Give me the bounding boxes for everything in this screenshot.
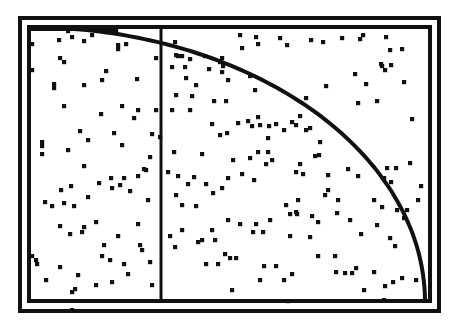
data-point (82, 225, 86, 229)
data-point (62, 60, 66, 64)
data-point (384, 35, 388, 39)
data-point (94, 283, 98, 287)
data-point (57, 38, 61, 42)
data-point (97, 181, 101, 185)
data-point (34, 258, 38, 262)
data-point (254, 222, 258, 226)
data-point (44, 278, 48, 282)
data-point (69, 184, 73, 188)
data-point (372, 198, 376, 202)
data-point (194, 204, 198, 208)
data-point (210, 228, 214, 232)
data-point (388, 48, 392, 52)
data-point (253, 88, 257, 92)
data-point (414, 278, 418, 282)
data-point (173, 245, 177, 249)
data-point (389, 63, 393, 67)
data-point (30, 68, 34, 72)
data-point (168, 234, 172, 238)
data-point (86, 138, 90, 142)
data-point (348, 218, 352, 222)
data-point (346, 167, 350, 171)
data-point (30, 254, 34, 258)
data-point (261, 230, 265, 234)
data-point (174, 93, 178, 97)
data-point (66, 29, 70, 33)
data-point (68, 232, 72, 236)
data-point (326, 173, 330, 177)
data-point (43, 200, 47, 204)
data-point (295, 212, 299, 216)
data-point (180, 203, 184, 207)
data-point (380, 205, 384, 209)
data-point (148, 260, 152, 264)
data-point (317, 153, 321, 157)
data-point (336, 198, 340, 202)
data-point (72, 204, 76, 208)
data-point (372, 270, 376, 274)
data-point (218, 133, 222, 137)
data-point (110, 28, 114, 32)
data-point (126, 272, 130, 276)
data-point (94, 27, 98, 31)
data-point (231, 158, 235, 162)
data-point (226, 176, 230, 180)
random-points (30, 27, 423, 312)
data-point (286, 299, 290, 303)
data-point (318, 140, 322, 144)
data-point (166, 170, 170, 174)
data-point (278, 36, 282, 40)
data-point (248, 74, 252, 78)
data-point (282, 278, 286, 282)
data-point (248, 156, 252, 160)
data-point (200, 152, 204, 156)
data-point (184, 76, 188, 80)
data-point (154, 56, 158, 60)
data-point (188, 57, 192, 61)
data-point (194, 83, 198, 87)
data-point (102, 27, 106, 31)
data-point (62, 104, 66, 108)
data-point (172, 150, 176, 154)
data-point (58, 224, 62, 228)
data-point (73, 287, 77, 291)
data-point (324, 84, 328, 88)
data-point (400, 276, 404, 280)
data-point (180, 54, 184, 58)
data-point (410, 117, 414, 121)
data-point (142, 167, 146, 171)
data-point (285, 43, 289, 47)
data-point (362, 288, 366, 292)
data-point (274, 264, 278, 268)
data-point (90, 27, 94, 31)
data-point (238, 33, 242, 37)
data-point (258, 123, 262, 127)
data-point (66, 148, 70, 152)
data-point (356, 174, 360, 178)
data-point (211, 191, 215, 195)
data-point (220, 70, 224, 74)
data-point (122, 176, 126, 180)
data-point (204, 182, 208, 186)
data-point (383, 68, 387, 72)
data-point (135, 77, 139, 81)
data-point (405, 208, 409, 212)
data-point (408, 161, 412, 165)
data-point (40, 140, 44, 144)
data-point (190, 94, 194, 98)
data-point (52, 86, 56, 90)
data-point (207, 67, 211, 71)
data-point (395, 208, 399, 212)
data-point (158, 135, 162, 139)
data-point (225, 131, 229, 135)
data-point (80, 230, 84, 234)
data-point (124, 42, 128, 46)
data-point (323, 193, 327, 197)
data-point (150, 283, 154, 287)
calculator-graph-screen (0, 0, 455, 328)
data-point (192, 175, 196, 179)
data-point (110, 280, 114, 284)
data-point (230, 288, 234, 292)
data-point (316, 254, 320, 258)
data-point (35, 262, 39, 266)
